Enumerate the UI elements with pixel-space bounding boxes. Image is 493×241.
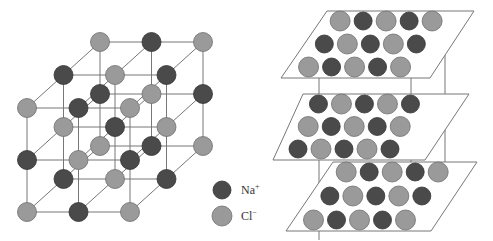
na-ion: [69, 203, 88, 222]
cl-ion: [345, 57, 365, 77]
na-ion: [400, 12, 418, 30]
cl-ion: [382, 162, 402, 182]
na-ion: [157, 66, 176, 85]
cl-ion: [18, 203, 37, 222]
na-ion: [157, 170, 176, 189]
na-ion: [368, 118, 386, 136]
cl-ion: [299, 57, 319, 77]
na-ion: [401, 95, 419, 113]
layer-3: [286, 162, 477, 231]
cl-ion: [377, 94, 397, 114]
cl-ion: [303, 210, 323, 230]
cl-ion: [357, 139, 377, 159]
na-ion: [18, 151, 37, 170]
cl-ion: [390, 117, 410, 137]
cube-lattice-atoms: [18, 33, 213, 222]
cl-ion: [343, 186, 363, 206]
legend-na-swatch: [213, 181, 231, 199]
cl-ion: [422, 11, 442, 31]
na-ion: [54, 170, 73, 189]
cl-ion: [331, 94, 351, 114]
na-ion: [106, 118, 125, 137]
cl-ion: [428, 162, 448, 182]
na-ion: [367, 187, 385, 205]
legend-cl-swatch: [212, 206, 232, 226]
cl-ion: [142, 85, 161, 104]
legend: [212, 181, 232, 226]
legend-label-na: Na+: [241, 182, 260, 198]
na-ion: [194, 85, 213, 104]
na-ion: [354, 12, 372, 30]
layered-planes: [273, 11, 477, 240]
cl-ion: [376, 11, 396, 31]
cl-ion: [91, 137, 110, 156]
cl-ion: [395, 210, 415, 230]
cl-ion: [69, 151, 88, 170]
na-ion: [142, 137, 161, 156]
cl-ion: [91, 33, 110, 52]
cl-ion: [106, 66, 125, 85]
cl-ion: [337, 34, 357, 54]
cl-ion: [106, 170, 125, 189]
na-ion: [323, 58, 341, 76]
na-ion: [309, 95, 327, 113]
na-ion: [54, 66, 73, 85]
na-ion: [407, 35, 425, 53]
na-ion: [360, 163, 378, 181]
na-ion: [121, 151, 140, 170]
cl-ion: [391, 57, 411, 77]
cl-ion: [389, 186, 409, 206]
na-ion: [413, 187, 431, 205]
cl-ion: [344, 117, 364, 137]
na-ion: [373, 211, 391, 229]
na-ion: [406, 163, 424, 181]
na-ion: [321, 187, 339, 205]
cl-ion: [157, 118, 176, 137]
cl-ion: [311, 139, 331, 159]
cl-ion: [121, 203, 140, 222]
cl-ion: [121, 99, 140, 118]
na-ion: [335, 140, 353, 158]
na-ion: [355, 95, 373, 113]
cl-ion: [18, 99, 37, 118]
na-ion: [361, 35, 379, 53]
cl-ion: [349, 210, 369, 230]
cl-ion: [298, 117, 318, 137]
cl-ion: [194, 33, 213, 52]
na-ion: [322, 118, 340, 136]
nacl-diagram: [0, 0, 493, 241]
cl-ion: [383, 34, 403, 54]
cl-ion: [330, 11, 350, 31]
na-ion: [142, 33, 161, 52]
na-ion: [327, 211, 345, 229]
cl-ion: [336, 162, 356, 182]
na-ion: [289, 140, 307, 158]
cl-ion: [194, 137, 213, 156]
na-ion: [381, 140, 399, 158]
na-ion: [315, 35, 333, 53]
na-ion: [91, 85, 110, 104]
na-ion: [69, 99, 88, 118]
na-ion: [369, 58, 387, 76]
legend-label-cl: Cl−: [241, 208, 257, 224]
cl-ion: [54, 118, 73, 137]
layer-2: [273, 94, 469, 160]
